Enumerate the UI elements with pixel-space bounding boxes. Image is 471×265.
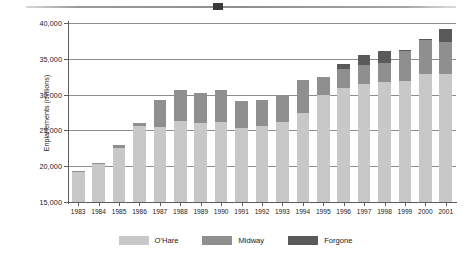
bar-2000[interactable]: [419, 39, 432, 202]
x-tick-label-1998: 1998: [377, 208, 392, 215]
bar-segment-2001-ohare[interactable]: [439, 74, 452, 202]
bar-segment-2001-midway[interactable]: [439, 42, 452, 74]
bar-segment-1994-midway[interactable]: [297, 80, 310, 112]
x-tick-label-1988: 1988: [173, 208, 188, 215]
bar-segment-1987-midway[interactable]: [154, 100, 167, 127]
bar-1998[interactable]: [378, 51, 391, 202]
x-tick-mark-1997: [364, 202, 365, 206]
bar-segment-1988-ohare[interactable]: [174, 121, 187, 202]
x-tick-mark-1999: [405, 202, 406, 206]
bar-2001[interactable]: [439, 29, 452, 202]
bar-segment-1995-midway[interactable]: [317, 77, 330, 95]
bar-segment-1993-ohare[interactable]: [276, 122, 289, 202]
legend-swatch-ohare: [119, 236, 149, 245]
bar-1985[interactable]: [113, 145, 126, 202]
bar-segment-1993-midway[interactable]: [276, 95, 289, 123]
bar-segment-1994-ohare[interactable]: [297, 113, 310, 202]
legend-label-forgone: Forgone: [324, 236, 352, 245]
bar-segment-1996-midway[interactable]: [337, 69, 350, 88]
x-tick-mark-1985: [119, 202, 120, 206]
bar-segment-1998-forgone[interactable]: [378, 51, 391, 63]
x-tick-label-1989: 1989: [193, 208, 208, 215]
x-tick-label-1993: 1993: [275, 208, 290, 215]
bar-segment-1989-midway[interactable]: [194, 93, 207, 123]
header-rule: [26, 6, 456, 8]
x-tick-label-1997: 1997: [357, 208, 372, 215]
x-tick-label-1999: 1999: [398, 208, 413, 215]
bar-segment-1989-ohare[interactable]: [194, 123, 207, 202]
bar-1983[interactable]: [72, 171, 85, 202]
bar-segment-1995-ohare[interactable]: [317, 95, 330, 202]
y-tick-label-40000: 40,000: [39, 19, 62, 28]
bar-1987[interactable]: [154, 100, 167, 202]
x-tick-label-1984: 1984: [91, 208, 106, 215]
x-tick-label-1985: 1985: [112, 208, 127, 215]
bar-segment-2000-ohare[interactable]: [419, 74, 432, 202]
x-tick-mark-1989: [201, 202, 202, 206]
x-tick-mark-2000: [425, 202, 426, 206]
bar-segment-1984-ohare[interactable]: [92, 164, 105, 202]
legend-item-forgone[interactable]: Forgone: [288, 236, 352, 245]
bar-1996[interactable]: [337, 64, 350, 202]
bar-segment-1998-midway[interactable]: [378, 63, 391, 82]
legend-label-ohare: O'Hare: [155, 236, 179, 245]
bar-1993[interactable]: [276, 95, 289, 202]
bar-segment-1997-midway[interactable]: [358, 65, 371, 84]
x-tick-mark-1995: [323, 202, 324, 206]
chart-legend: O'HareMidwayForgone: [0, 236, 471, 245]
legend-swatch-midway: [202, 236, 232, 245]
bar-segment-1983-ohare[interactable]: [72, 172, 85, 202]
bar-1986[interactable]: [133, 123, 146, 202]
bar-segment-1992-ohare[interactable]: [256, 126, 269, 202]
x-tick-mark-1991: [242, 202, 243, 206]
bar-1997[interactable]: [358, 55, 371, 202]
bar-segment-1987-ohare[interactable]: [154, 127, 167, 202]
bar-1989[interactable]: [194, 93, 207, 202]
bar-segment-1999-midway[interactable]: [399, 51, 412, 81]
bar-1984[interactable]: [92, 163, 105, 202]
bar-segment-1986-ohare[interactable]: [133, 126, 146, 202]
bar-1995[interactable]: [317, 77, 330, 202]
legend-item-ohare[interactable]: O'Hare: [119, 236, 179, 245]
bar-1999[interactable]: [399, 50, 412, 202]
legend-label-midway: Midway: [238, 236, 264, 245]
y-tick-label-35000: 35,000: [39, 54, 62, 63]
x-tick-label-1994: 1994: [295, 208, 310, 215]
y-tick-label-15000: 15,000: [39, 198, 62, 207]
x-tick-mark-1990: [221, 202, 222, 206]
bar-1992[interactable]: [256, 100, 269, 202]
x-tick-label-1996: 1996: [336, 208, 351, 215]
x-tick-mark-1994: [303, 202, 304, 206]
x-tick-mark-1993: [282, 202, 283, 206]
bar-segment-1990-ohare[interactable]: [215, 122, 228, 202]
y-axis-title: Enplanements (millions): [42, 74, 51, 151]
bar-segment-1996-ohare[interactable]: [337, 88, 350, 202]
x-tick-label-1995: 1995: [316, 208, 331, 215]
bar-segment-1998-ohare[interactable]: [378, 82, 391, 202]
bar-segment-1985-ohare[interactable]: [113, 148, 126, 202]
bar-1994[interactable]: [297, 80, 310, 202]
bar-segment-1992-midway[interactable]: [256, 100, 269, 126]
bar-segment-1988-midway[interactable]: [174, 90, 187, 121]
bar-segment-1991-midway[interactable]: [235, 101, 248, 128]
x-tick-label-1992: 1992: [255, 208, 270, 215]
x-tick-mark-1983: [78, 202, 79, 206]
bar-segment-2000-midway[interactable]: [419, 40, 432, 74]
x-tick-mark-2001: [446, 202, 447, 206]
x-tick-label-1990: 1990: [214, 208, 229, 215]
bar-1990[interactable]: [215, 90, 228, 202]
y-tick-label-25000: 25,000: [39, 126, 62, 135]
legend-item-midway[interactable]: Midway: [202, 236, 264, 245]
x-tick-label-1983: 1983: [71, 208, 86, 215]
bar-1991[interactable]: [235, 101, 248, 202]
x-tick-label-1986: 1986: [132, 208, 147, 215]
header-rule-marker: [213, 3, 223, 10]
bar-segment-1997-forgone[interactable]: [358, 55, 371, 66]
bar-segment-1991-ohare[interactable]: [235, 128, 248, 202]
bar-1988[interactable]: [174, 90, 187, 202]
bar-segment-1990-midway[interactable]: [215, 90, 228, 122]
bar-segment-2001-forgone[interactable]: [439, 29, 452, 42]
bar-segment-1999-ohare[interactable]: [399, 81, 412, 202]
bar-segment-1997-ohare[interactable]: [358, 84, 371, 202]
x-tick-mark-1987: [160, 202, 161, 206]
